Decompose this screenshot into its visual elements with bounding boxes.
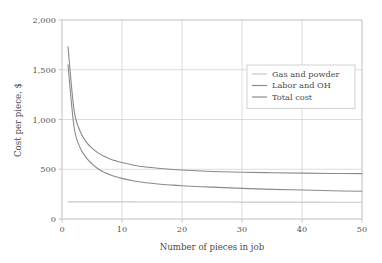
cost-per-piece-line-chart: 05001,0001,5002,000 01020304050 Number o… [0, 0, 382, 263]
x-tick-label: 0 [59, 224, 64, 234]
x-tick-label: 10 [117, 224, 127, 234]
y-tick-label: 1,000 [33, 115, 56, 125]
chart-background [0, 0, 382, 263]
chart-legend: Gas and powderLabor and OHTotal cost [247, 65, 355, 109]
legend-label: Total cost [272, 92, 313, 102]
legend-label: Labor and OH [272, 80, 331, 90]
y-axis-title: Cost per piece, $ [13, 83, 23, 157]
y-tick-label: 1,500 [33, 65, 56, 75]
x-tick-label: 50 [357, 224, 367, 234]
legend-label: Gas and powder [272, 69, 339, 79]
x-axis-title: Number of pieces in job [160, 242, 265, 252]
y-tick-label: 0 [51, 214, 56, 224]
x-tick-label: 20 [177, 224, 187, 234]
x-tick-label: 40 [297, 224, 307, 234]
chart-figure: 05001,0001,5002,000 01020304050 Number o… [0, 0, 382, 263]
y-tick-label: 500 [40, 164, 56, 174]
y-tick-label: 2,000 [33, 15, 56, 25]
x-tick-label: 30 [237, 224, 247, 234]
